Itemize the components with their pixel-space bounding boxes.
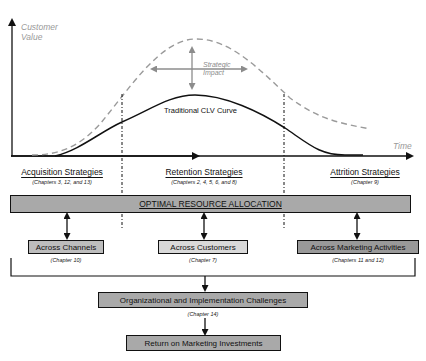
optimal-resource-allocation-label: OPTIMAL RESOURCE ALLOCATION bbox=[139, 199, 282, 209]
traditional-clv-curve-label: Traditional CLV Curve bbox=[164, 106, 237, 115]
y-axis-label-line1: Customer bbox=[21, 22, 58, 32]
dimension-across-customers-label: Across Customers bbox=[170, 243, 235, 252]
strategic-impact-label: Strategic Impact bbox=[203, 61, 231, 77]
dimension-across-customers-chapters: (Chapter 7) bbox=[158, 257, 248, 263]
strategic-clv-curve bbox=[32, 39, 370, 155]
strategic-impact-line1: Strategic bbox=[203, 61, 231, 69]
y-axis-label-line2: Value bbox=[21, 32, 58, 42]
strategy-attrition-label: Attrition Strategies bbox=[325, 167, 405, 177]
strategy-retention-chapters: (Chapters 2, 4, 5, 6, and 8) bbox=[154, 179, 254, 185]
return-on-marketing-investments-label: Return on Marketing Investments bbox=[145, 339, 263, 348]
strategy-acquisition: Acquisition Strategies (Chapters 3, 12, … bbox=[12, 167, 112, 185]
y-axis-label: Customer Value bbox=[21, 22, 58, 42]
dimension-across-channels-chapters: (Chapter 10) bbox=[28, 257, 104, 263]
strategy-attrition-chapters: (Chapter 9) bbox=[325, 179, 405, 185]
x-axis-label: Time bbox=[393, 141, 412, 151]
optimal-resource-allocation-bar: OPTIMAL RESOURCE ALLOCATION bbox=[10, 195, 411, 213]
dimension-across-channels-label: Across Channels bbox=[36, 243, 96, 252]
strategy-attrition: Attrition Strategies (Chapter 9) bbox=[325, 167, 405, 185]
strategy-retention-label: Retention Strategies bbox=[154, 167, 254, 177]
allocation-connectors bbox=[67, 214, 357, 238]
strategy-acquisition-label: Acquisition Strategies bbox=[12, 167, 112, 177]
dimension-across-channels: Across Channels bbox=[28, 240, 104, 254]
organizational-challenges-box: Organizational and Implementation Challe… bbox=[98, 292, 308, 308]
strategic-impact-arrows bbox=[152, 48, 246, 88]
strategy-acquisition-chapters: (Chapters 3, 12, and 13) bbox=[12, 179, 112, 185]
dimension-across-customers: Across Customers bbox=[158, 240, 248, 254]
dimension-across-marketing-activities-label: Across Marketing Activities bbox=[310, 243, 405, 252]
organizational-challenges-chapters: (Chapter 14) bbox=[98, 311, 308, 317]
strategic-impact-line2: Impact bbox=[203, 69, 231, 77]
dimension-across-marketing-activities: Across Marketing Activities bbox=[297, 240, 419, 254]
dimension-across-marketing-activities-chapters: (Chapters 11 and 12) bbox=[297, 257, 419, 263]
strategy-retention: Retention Strategies (Chapters 2, 4, 5, … bbox=[154, 167, 254, 185]
traditional-clv-curve bbox=[55, 95, 363, 156]
return-on-marketing-investments-box: Return on Marketing Investments bbox=[126, 335, 281, 351]
organizational-challenges-label: Organizational and Implementation Challe… bbox=[120, 296, 286, 305]
